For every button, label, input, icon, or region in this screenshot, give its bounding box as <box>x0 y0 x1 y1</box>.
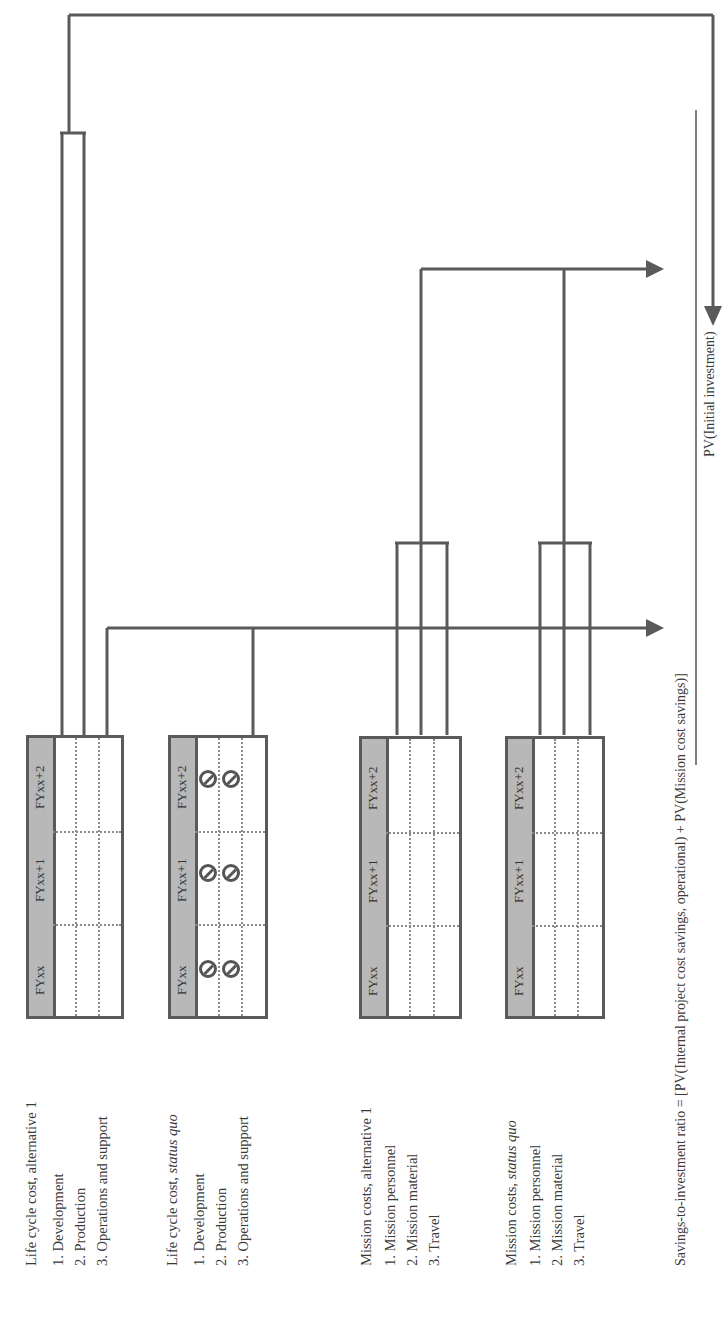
header-fyxx1: FYxx+1 <box>174 859 190 902</box>
header-fyxx: FYxx <box>174 965 190 995</box>
group-label-lcc-alt1: Life cycle cost, alternative 1 1. Develo… <box>22 1101 111 1266</box>
group-label-lcc-status-quo: Life cycle cost, status quo 1. Developme… <box>163 1114 252 1266</box>
list-item: 3. Travel <box>570 1120 588 1266</box>
table-header: FYxx FYxx+1 FYxx+2 <box>362 739 389 1016</box>
list-item: 3. Operations and support <box>93 1101 111 1266</box>
list-item: 2. Production <box>212 1114 230 1266</box>
group-title-suffix: status quo <box>503 1120 519 1179</box>
list-item: 3. Operations and support <box>234 1114 252 1266</box>
list-item: 2. Mission material <box>403 1107 421 1266</box>
header-fyxx1: FYxx+1 <box>365 860 381 903</box>
group-title: Mission costs, <box>503 1179 519 1266</box>
header-fyxx2: FYxx+2 <box>511 767 527 810</box>
header-fyxx: FYxx <box>365 966 381 996</box>
no-entry-icon <box>199 770 217 788</box>
formula-numerator: Savings-to-investment ratio = [PV(Intern… <box>672 673 690 1266</box>
table-header: FYxx FYxx+1 FYxx+2 <box>29 738 56 1016</box>
cost-table-lcc-status-quo: FYxx FYxx+1 FYxx+2 <box>168 735 268 1019</box>
header-fyxx2: FYxx+2 <box>174 766 190 809</box>
group-title-suffix: alternative 1 <box>23 1101 39 1173</box>
arrow-head-mission <box>646 260 664 278</box>
list-item: 2. Production <box>71 1101 89 1266</box>
formula-denominator-text: PV(Initial investment) <box>702 331 717 457</box>
table-header: FYxx FYxx+1 FYxx+2 <box>171 738 198 1016</box>
formula-numerator-text: [PV(Internal project cost savings, opera… <box>673 673 688 1096</box>
formula-denominator: PV(Initial investment) <box>701 331 719 457</box>
group-title: Mission costs, <box>358 1179 374 1266</box>
no-entry-icon <box>199 960 217 978</box>
group-title: Life cycle cost, <box>23 1173 39 1266</box>
list-item: 1. Mission personnel <box>526 1120 544 1266</box>
list-item: 2. Mission material <box>548 1120 566 1266</box>
list-item: 1. Development <box>49 1101 67 1266</box>
group-label-mission-alt1: Mission costs, alternative 1 1. Mission … <box>357 1107 443 1266</box>
formula-lhs: Savings-to-investment ratio = <box>673 1096 688 1266</box>
list-item: 1. Mission personnel <box>381 1107 399 1266</box>
no-entry-icon <box>222 770 240 788</box>
header-fyxx1: FYxx+1 <box>511 860 527 903</box>
list-item: 1. Development <box>190 1114 208 1266</box>
header-fyxx: FYxx <box>511 966 527 996</box>
group-title-suffix: alternative 1 <box>358 1107 374 1179</box>
no-entry-icon <box>199 864 217 882</box>
cost-table-mission-status-quo: FYxx FYxx+1 FYxx+2 <box>505 736 605 1019</box>
header-fyxx1: FYxx+1 <box>32 859 48 902</box>
group-title-suffix: status quo <box>164 1114 180 1173</box>
group-label-mission-status-quo: Mission costs, status quo 1. Mission per… <box>502 1120 588 1266</box>
header-fyxx2: FYxx+2 <box>365 767 381 810</box>
arrow-head-investment <box>704 306 722 326</box>
list-item: 3. Travel <box>425 1107 443 1266</box>
group-title: Life cycle cost, <box>164 1173 180 1266</box>
arrow-head-operational <box>646 619 664 637</box>
table-header: FYxx FYxx+1 FYxx+2 <box>508 739 535 1016</box>
header-fyxx: FYxx <box>32 965 48 995</box>
no-entry-icon <box>222 864 240 882</box>
cost-table-lcc-alt1: FYxx FYxx+1 FYxx+2 <box>26 735 124 1019</box>
header-fyxx2: FYxx+2 <box>32 766 48 809</box>
no-entry-icon <box>222 960 240 978</box>
cost-table-mission-alt1: FYxx FYxx+1 FYxx+2 <box>359 736 462 1019</box>
